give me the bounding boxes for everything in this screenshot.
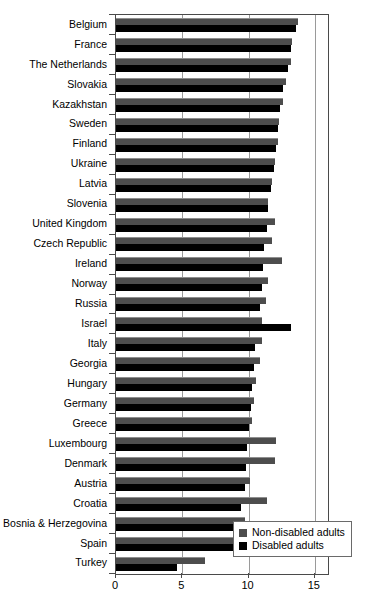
bar-non-disabled [116, 337, 262, 344]
bar-non-disabled [116, 297, 266, 304]
bar-non-disabled [116, 78, 286, 85]
bar-non-disabled [116, 397, 254, 404]
bar-row [116, 175, 328, 195]
bar-row [116, 274, 328, 294]
category-label: Ukraine [0, 154, 112, 174]
bar-row [116, 294, 328, 314]
bar-disabled [116, 244, 264, 251]
bar-disabled [116, 444, 247, 451]
bar-non-disabled [116, 38, 292, 45]
bar-disabled [116, 225, 267, 232]
bar-row [116, 454, 328, 474]
bar-non-disabled [116, 377, 256, 384]
category-label: Hungary [0, 373, 112, 393]
bar-row [116, 55, 328, 75]
x-tick-mark [115, 573, 116, 578]
category-label: Croatia [0, 493, 112, 513]
bar-row [116, 195, 328, 215]
x-tick-mark [248, 573, 249, 578]
category-label: Greece [0, 413, 112, 433]
bar-non-disabled [116, 178, 272, 185]
x-tick-label: 0 [112, 579, 118, 591]
x-tick-mark [314, 573, 315, 578]
bar-disabled [116, 45, 291, 52]
bar-non-disabled [116, 317, 262, 324]
category-label: Czech Republic [0, 233, 112, 253]
bar-disabled [116, 284, 262, 291]
legend-swatch-icon [239, 542, 247, 550]
category-label: Germany [0, 393, 112, 413]
bar-disabled [116, 504, 241, 511]
bar-disabled [116, 205, 268, 212]
bar-row [116, 135, 328, 155]
category-label: Latvia [0, 174, 112, 194]
x-tick-label: 10 [241, 579, 253, 591]
bar-disabled [116, 105, 280, 112]
bar-disabled [116, 264, 263, 271]
bar-row [116, 494, 328, 514]
bar-disabled [116, 424, 249, 431]
bar-disabled [116, 125, 278, 132]
chart-legend: Non-disabled adultsDisabled adults [233, 521, 352, 557]
category-label: Slovakia [0, 74, 112, 94]
bar-disabled [116, 185, 271, 192]
legend-item: Disabled adults [239, 539, 345, 552]
bar-disabled [116, 484, 245, 491]
bar-row [116, 115, 328, 135]
legend-label: Disabled adults [252, 539, 324, 552]
category-label: The Netherlands [0, 54, 112, 74]
bar-row [116, 95, 328, 115]
bar-disabled [116, 464, 246, 471]
bar-non-disabled [116, 277, 268, 284]
category-label: Luxembourg [0, 433, 112, 453]
bar-row [116, 215, 328, 235]
bar-row [116, 234, 328, 254]
bar-row [116, 334, 328, 354]
bar-row [116, 394, 328, 414]
bar-disabled [116, 384, 252, 391]
bar-non-disabled [116, 457, 275, 464]
bar-row [116, 75, 328, 95]
bar-rows [116, 15, 328, 574]
bar-non-disabled [116, 198, 268, 205]
category-label: France [0, 34, 112, 54]
category-label: Georgia [0, 353, 112, 373]
bar-non-disabled [116, 218, 275, 225]
category-label: Turkey [0, 553, 112, 573]
bar-row [116, 35, 328, 55]
bar-row [116, 15, 328, 35]
legend-label: Non-disabled adults [252, 526, 345, 539]
x-axis: 051015 [115, 573, 327, 603]
bar-row [116, 414, 328, 434]
bar-row [116, 314, 328, 334]
category-label: Russia [0, 293, 112, 313]
category-label: Italy [0, 333, 112, 353]
bar-non-disabled [116, 517, 245, 524]
bar-non-disabled [116, 357, 260, 364]
bar-non-disabled [116, 158, 275, 165]
bar-disabled [116, 65, 288, 72]
bar-non-disabled [116, 497, 267, 504]
category-label: Norway [0, 273, 112, 293]
bar-non-disabled [116, 477, 250, 484]
bar-non-disabled [116, 58, 291, 65]
category-label: Denmark [0, 453, 112, 473]
bar-non-disabled [116, 18, 298, 25]
category-label: Finland [0, 134, 112, 154]
category-label: Bosnia & Herzegovina [0, 513, 112, 533]
x-tick-label: 15 [308, 579, 320, 591]
bar-chart: BelgiumFranceThe NetherlandsSlovakiaKaza… [0, 0, 390, 612]
category-label: Spain [0, 533, 112, 553]
bar-disabled [116, 25, 296, 32]
bar-non-disabled [116, 118, 279, 125]
category-label: Ireland [0, 253, 112, 273]
x-tick-label: 5 [178, 579, 184, 591]
category-label: Belgium [0, 14, 112, 34]
bar-disabled [116, 304, 260, 311]
category-label: Slovenia [0, 194, 112, 214]
bar-disabled [116, 165, 274, 172]
bar-row [116, 354, 328, 374]
bar-non-disabled [116, 417, 252, 424]
bar-disabled [116, 564, 177, 571]
bar-disabled [116, 364, 254, 371]
